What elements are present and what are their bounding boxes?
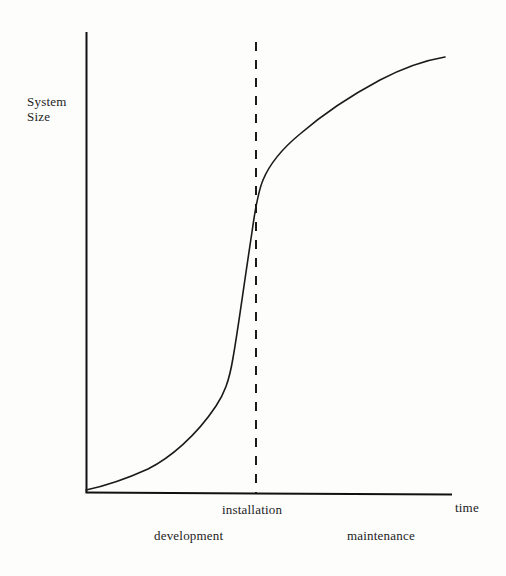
y-axis-label-line-2: Size xyxy=(27,109,66,124)
phase-label-development: development xyxy=(154,528,223,544)
x-axis-label: time xyxy=(455,500,479,516)
x-tick-label-installation: installation xyxy=(222,502,282,518)
x-axis-line xyxy=(86,493,453,495)
system-size-curve xyxy=(86,57,445,490)
system-growth-chart xyxy=(0,0,506,576)
chart-page: System Size time installation developmen… xyxy=(0,0,506,576)
y-axis-label-line-1: System xyxy=(27,94,66,109)
y-axis-label: System Size xyxy=(27,94,66,124)
phase-label-maintenance: maintenance xyxy=(347,528,415,544)
